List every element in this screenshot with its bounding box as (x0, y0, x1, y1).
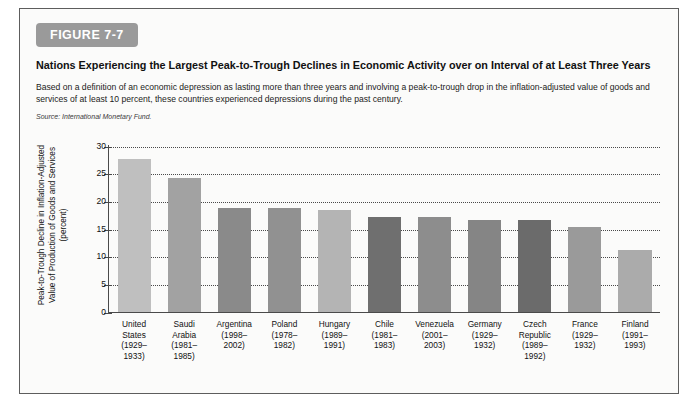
x-axis-label-venezuela: Venezuela(2001–2003) (410, 319, 460, 361)
x-axis-label-line: 1933) (110, 351, 158, 362)
bar-slot (410, 146, 460, 312)
bar-slot (510, 146, 560, 312)
x-axis-label-line: 1932) (461, 340, 509, 351)
x-axis-label-line: 1985) (160, 351, 208, 362)
y-axis-tick-label: 0 (84, 307, 106, 317)
x-axis-label-line: Arabia (160, 330, 208, 341)
x-axis-label-line: (1989– (310, 330, 358, 341)
y-axis-tick-label: 25 (84, 168, 106, 178)
plot-area: 051015202530 (108, 145, 660, 313)
bar-venezuela (418, 217, 451, 311)
x-axis-label-czech-republic: CzechRepublic(1989–1992) (510, 319, 560, 361)
bar-argentina (218, 208, 251, 311)
x-axis-label-line: Germany (461, 319, 509, 330)
x-axis-label-line: Finland (611, 319, 659, 330)
bar-slot (359, 146, 409, 312)
x-axis-label-hungary: Hungary(1989–1991) (309, 319, 359, 361)
figure-content: FIGURE 7-7 Nations Experiencing the Larg… (20, 9, 678, 393)
x-axis-label-line: (1998– (210, 330, 258, 341)
x-axis-label-line: Saudi (160, 319, 208, 330)
x-axis-label-line: 1982) (260, 340, 308, 351)
bar-germany (468, 220, 501, 311)
x-axis-label-line: Czech (511, 319, 559, 330)
bar-slot (259, 146, 309, 312)
x-axis-label-line: France (561, 319, 609, 330)
x-axis-label-line: Chile (360, 319, 408, 330)
x-axis-label-line: 1993) (611, 340, 659, 351)
bar-poland (268, 208, 301, 311)
x-axis-label-line: Argentina (210, 319, 258, 330)
x-axis-label-line: 1932) (561, 340, 609, 351)
x-axis-label-line: Venezuela (411, 319, 459, 330)
bar-chile (368, 217, 401, 311)
x-axis-label-line: (1929– (561, 330, 609, 341)
x-axis-label-finland: Finland(1991–1993) (610, 319, 660, 361)
y-axis-tick-label: 5 (84, 279, 106, 289)
bar-hungary (318, 210, 351, 312)
x-axis-label-line: (1991– (611, 330, 659, 341)
bar-chart: Peak-to-Trough Decline in Inflation-Adju… (36, 139, 664, 387)
x-axis-label-line: States (110, 330, 158, 341)
figure-source: Source: International Monetary Fund. (36, 113, 662, 120)
x-axis-label-line: United (110, 319, 158, 330)
figure-page: FIGURE 7-7 Nations Experiencing the Larg… (0, 0, 700, 402)
x-axis-label-line: Republic (511, 330, 559, 341)
x-axis-label-line: 1983) (360, 340, 408, 351)
x-axis-label-line: (1989– (511, 340, 559, 351)
bar-czech-republic (518, 220, 551, 311)
bar-slot (610, 146, 660, 312)
figure-frame: FIGURE 7-7 Nations Experiencing the Larg… (19, 8, 679, 394)
y-axis-tick-label: 30 (84, 141, 106, 151)
bar-slot (309, 146, 359, 312)
y-axis-tick-label: 10 (84, 251, 106, 261)
x-axis-label-germany: Germany(1929–1932) (460, 319, 510, 361)
x-axis-label-chile: Chile(1981–1983) (359, 319, 409, 361)
x-axis-label-line: (1929– (110, 340, 158, 351)
x-axis-label-argentina: Argentina(1998–2002) (209, 319, 259, 361)
x-axis-label-france: France(1929–1932) (560, 319, 610, 361)
bar-united-states (118, 159, 151, 312)
x-axis-label-saudi-arabia: SaudiArabia(1981–1985) (159, 319, 209, 361)
x-axis-label-line: 2003) (411, 340, 459, 351)
bar-saudi-arabia (168, 178, 201, 312)
x-axis-label-united-states: UnitedStates(1929–1933) (109, 319, 159, 361)
x-axis-label-line: 1991) (310, 340, 358, 351)
bar-slot (109, 146, 159, 312)
bar-slot (560, 146, 610, 312)
x-axis-label-line: (1981– (360, 330, 408, 341)
bar-finland (618, 250, 651, 311)
x-axis-label-line: (2001– (411, 330, 459, 341)
x-axis-label-line: (1981– (160, 340, 208, 351)
x-axis-label-line: 1992) (511, 351, 559, 362)
figure-number-badge: FIGURE 7-7 (36, 23, 138, 47)
x-axis-label-line: (1929– (461, 330, 509, 341)
y-axis-tick-label: 20 (84, 196, 106, 206)
x-axis-labels: UnitedStates(1929–1933)SaudiArabia(1981–… (109, 319, 660, 361)
bar-slot (209, 146, 259, 312)
x-axis-label-line: Hungary (310, 319, 358, 330)
x-axis-label-line: Poland (260, 319, 308, 330)
bar-slot (460, 146, 510, 312)
bar-slot (159, 146, 209, 312)
x-axis-label-poland: Poland(1978–1982) (259, 319, 309, 361)
x-axis-label-line: (1978– (260, 330, 308, 341)
y-axis-label: Peak-to-Trough Decline in Inflation-Adju… (36, 139, 70, 311)
bar-series (109, 146, 660, 312)
figure-title: Nations Experiencing the Largest Peak-to… (36, 58, 651, 73)
x-axis-line (108, 312, 660, 314)
x-axis-label-line: 2002) (210, 340, 258, 351)
figure-subtitle: Based on a definition of an economic dep… (36, 81, 654, 106)
y-axis-tick-label: 15 (84, 224, 106, 234)
bar-france (568, 227, 601, 311)
